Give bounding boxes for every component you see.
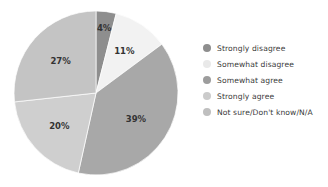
pie-chart-figure: 4%11%39%20%27% Strongly disagreeSomewhat…	[0, 0, 328, 187]
pie-slice-label: 39%	[126, 114, 147, 124]
pie-slice-label: 20%	[49, 121, 70, 131]
pie-slice-label: 11%	[114, 46, 135, 56]
legend-item-label: Strongly disagree	[217, 44, 285, 53]
legend-item-label: Somewhat disagree	[217, 60, 294, 69]
legend-swatch-icon	[203, 76, 211, 84]
legend-swatch-icon	[203, 44, 211, 52]
legend-swatch-icon	[203, 108, 211, 116]
legend-swatch-icon	[203, 92, 211, 100]
legend-item-label: Not sure/Don't know/N/A	[217, 108, 313, 117]
pie-slice-label: 27%	[50, 56, 71, 66]
legend-item[interactable]: Somewhat agree	[199, 72, 328, 88]
pie-slice-label: 4%	[97, 23, 112, 33]
chart-legend: Strongly disagreeSomewhat disagreeSomewh…	[199, 40, 328, 120]
pie-chart-svg: 4%11%39%20%27%	[0, 0, 192, 187]
legend-item[interactable]: Strongly disagree	[199, 40, 328, 56]
legend-swatch-icon	[203, 60, 211, 68]
legend-item[interactable]: Not sure/Don't know/N/A	[199, 104, 328, 120]
legend-item[interactable]: Strongly agree	[199, 88, 328, 104]
pie-chart-plot-area: 4%11%39%20%27%	[0, 0, 192, 187]
legend-item-label: Somewhat agree	[217, 76, 283, 85]
pie-slice-group	[14, 11, 178, 175]
legend-item-label: Strongly agree	[217, 92, 274, 101]
legend-item[interactable]: Somewhat disagree	[199, 56, 328, 72]
